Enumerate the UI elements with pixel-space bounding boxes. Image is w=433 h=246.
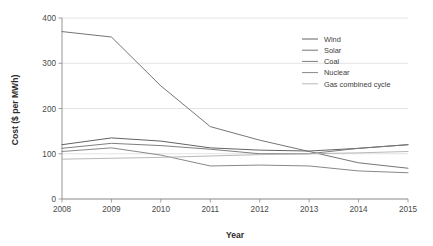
y-axis-title: Cost ($ per MWh) (10, 75, 20, 146)
legend-label-nuclear: Nuclear (324, 68, 350, 77)
x-axis-ticks: 20082009201020112012201320142015 (53, 199, 418, 214)
x-axis-title: Year (226, 230, 245, 240)
y-tick-label: 0 (51, 195, 56, 204)
chart-container: 0100200300400 20082009201020112012201320… (0, 0, 433, 246)
gridlines (62, 18, 408, 199)
x-tick-label: 2011 (201, 205, 219, 214)
x-tick-label: 2008 (53, 205, 72, 214)
line-chart: 0100200300400 20082009201020112012201320… (0, 0, 433, 246)
series-lines (62, 32, 408, 173)
legend-label-coal: Coal (324, 57, 340, 66)
x-axis: 20082009201020112012201320142015 (53, 199, 418, 214)
x-tick-label: 2014 (349, 205, 368, 214)
x-tick-label: 2010 (152, 205, 171, 214)
y-tick-label: 100 (42, 150, 56, 159)
legend-label-wind: Wind (324, 35, 341, 44)
series-line-solar (62, 32, 408, 169)
y-tick-label: 400 (42, 14, 56, 23)
series-line-gas-combined-cycle (62, 151, 408, 159)
legend-label-gas-combined-cycle: Gas combined cycle (324, 80, 391, 89)
y-axis: 0100200300400 (42, 14, 62, 204)
x-tick-label: 2015 (399, 205, 418, 214)
x-tick-label: 2009 (102, 205, 121, 214)
y-tick-label: 300 (42, 59, 56, 68)
y-axis-ticks: 0100200300400 (42, 14, 62, 204)
x-tick-label: 2012 (251, 205, 270, 214)
y-tick-label: 200 (42, 105, 56, 114)
chart-legend: WindSolarCoalNuclearGas combined cycle (302, 35, 391, 89)
x-tick-label: 2013 (300, 205, 319, 214)
legend-label-solar: Solar (324, 46, 342, 55)
